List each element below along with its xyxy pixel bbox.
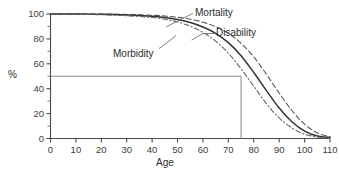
disability-curve-label: Disability — [216, 28, 256, 38]
mortality-curve-label: Mortality — [195, 8, 233, 18]
y-tick-label: 60 — [14, 59, 44, 69]
curve-disability — [51, 14, 331, 138]
y-tick-label: 40 — [14, 84, 44, 94]
x-tick-label: 70 — [223, 145, 234, 155]
survival-curves-chart: 020406080100 0102030405060708090100110 %… — [0, 0, 339, 175]
y-tick-label: 20 — [14, 109, 44, 119]
y-tick-label: 0 — [14, 134, 44, 144]
x-tick-label: 50 — [172, 145, 183, 155]
x-tick-label: 110 — [322, 145, 337, 155]
y-tick-label: 80 — [14, 34, 44, 44]
x-axis-title: Age — [156, 158, 174, 168]
morbidity-curve-label: Morbidity — [113, 49, 154, 59]
morbidity-leader-line — [159, 36, 176, 49]
y-axis-title: % — [8, 70, 17, 80]
x-tick-label: 60 — [198, 145, 209, 155]
x-tick-label: 0 — [48, 145, 53, 155]
disability-leader-line — [192, 34, 215, 41]
x-axis-major-ticks — [51, 139, 331, 143]
reference-lines — [51, 76, 242, 138]
y-tick-label: 100 — [14, 9, 44, 19]
x-tick-label: 40 — [147, 145, 158, 155]
x-tick-label: 30 — [121, 145, 132, 155]
x-tick-label: 10 — [71, 145, 82, 155]
x-tick-label: 80 — [248, 145, 259, 155]
x-tick-label: 100 — [297, 145, 313, 155]
x-tick-label: 90 — [274, 145, 285, 155]
x-tick-label: 20 — [96, 145, 107, 155]
